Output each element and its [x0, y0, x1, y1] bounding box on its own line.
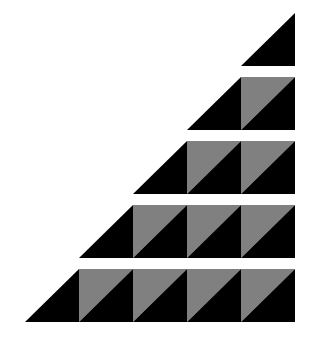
triangle-row-1: [241, 13, 295, 66]
black-triangle: [79, 205, 133, 258]
figure-canvas: [0, 0, 316, 349]
black-triangle: [241, 13, 295, 66]
triangle-staircase-figure: Staircase of triangle rows: each row n h…: [0, 0, 316, 349]
black-triangle: [133, 141, 187, 194]
black-triangle: [187, 77, 241, 130]
black-triangle: [25, 269, 79, 322]
triangle-row-2: [187, 77, 295, 130]
triangle-row-4: [79, 205, 295, 258]
triangle-row-5: [25, 269, 295, 322]
triangle-row-3: [133, 141, 295, 194]
